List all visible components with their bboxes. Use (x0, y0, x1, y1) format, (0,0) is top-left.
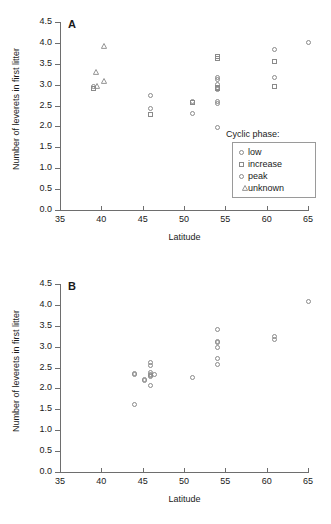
square-marker-icon (236, 159, 247, 170)
panel-a-x-axis-title: Latitude (60, 232, 309, 242)
data-point-low (306, 40, 311, 45)
x-tick-label: 55 (210, 214, 240, 224)
panel-a-legend: lowincreasepeakunknown (232, 142, 316, 198)
data-point-decline (132, 402, 137, 407)
data-point-decline (190, 375, 195, 380)
circle-glyph-icon (239, 150, 244, 155)
y-tick-label: 0.0 (14, 467, 52, 476)
x-tick-label: 50 (169, 214, 199, 224)
data-point-decline (215, 362, 220, 367)
y-tick-label: 0.0 (14, 205, 52, 214)
figure-leverets-vs-latitude: A 0.00.51.01.52.02.53.03.54.04.535404550… (0, 0, 331, 524)
data-point-unknown (90, 69, 96, 74)
legend-item-label: peak (248, 171, 268, 181)
data-point-decline (148, 363, 153, 368)
x-tick-label: 35 (45, 214, 75, 224)
data-point-increase (272, 84, 277, 89)
triangle-glyph-icon (239, 185, 245, 190)
data-point-decline (215, 340, 220, 345)
legend-item-label: low (248, 147, 262, 157)
data-point-increase (215, 54, 220, 59)
data-point-decline (215, 327, 220, 332)
data-point-decline (272, 337, 277, 342)
data-point-low (272, 47, 277, 52)
data-point-unknown (91, 83, 97, 88)
data-point-low (215, 101, 220, 106)
data-point-peak (215, 77, 220, 82)
legend-item-peak[interactable]: peak (236, 170, 310, 182)
data-point-decline (215, 345, 220, 350)
data-point-decline (142, 378, 147, 383)
x-tick-label: 40 (86, 476, 116, 486)
data-point-low (215, 125, 220, 130)
panel-b-y-axis-title: Number of leverets in first litter (11, 281, 21, 461)
x-tick-mark (308, 206, 309, 211)
circle-glyph-icon (239, 174, 244, 179)
data-point-low (272, 75, 277, 80)
data-point-low (148, 106, 153, 111)
data-point-unknown (98, 78, 104, 83)
panel-a-y-axis-title: Number of leverets in first litter (11, 19, 21, 199)
legend-item-low[interactable]: low (236, 146, 310, 158)
legend-item-increase[interactable]: increase (236, 158, 310, 170)
panel-b-plot-area (60, 284, 308, 472)
panel-a: A 0.00.51.01.52.02.53.03.54.04.535404550… (0, 0, 331, 262)
x-tick-label: 60 (252, 476, 282, 486)
data-point-unknown (98, 43, 104, 48)
data-point-decline (148, 383, 153, 388)
panel-b-x-axis-title: Latitude (60, 494, 309, 504)
square-glyph-icon (239, 162, 244, 167)
x-tick-label: 50 (169, 476, 199, 486)
legend-item-unknown[interactable]: unknown (236, 182, 310, 194)
data-point-increase (272, 59, 277, 64)
circle-marker-icon (236, 147, 247, 158)
data-point-low (190, 111, 195, 116)
x-tick-label: 65 (293, 476, 323, 486)
x-tick-label: 40 (86, 214, 116, 224)
x-tick-label: 35 (45, 476, 75, 486)
panel-b: B 0.00.51.01.52.02.53.03.54.04.535404550… (0, 262, 331, 524)
data-point-increase (148, 112, 153, 117)
panel-a-legend-title: Cyclic phase: (226, 129, 280, 139)
legend-item-label: unknown (248, 183, 284, 193)
data-point-decline (132, 372, 137, 377)
data-point-peak (148, 93, 153, 98)
data-point-decline (306, 299, 311, 304)
x-tick-label: 45 (128, 476, 158, 486)
data-point-decline (215, 356, 220, 361)
data-point-decline (152, 372, 157, 377)
circle-marker-icon (236, 171, 247, 182)
triangle-marker-icon (236, 183, 247, 194)
x-tick-mark (308, 468, 309, 473)
x-tick-label: 55 (210, 476, 240, 486)
legend-item-label: increase (248, 159, 282, 169)
x-tick-label: 60 (252, 214, 282, 224)
x-tick-label: 45 (128, 214, 158, 224)
x-tick-label: 65 (293, 214, 323, 224)
data-point-peak (215, 86, 220, 91)
